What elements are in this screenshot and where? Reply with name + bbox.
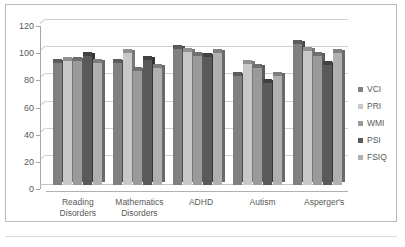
bar-slot	[113, 26, 122, 185]
bar	[313, 56, 322, 185]
bar-slot	[93, 26, 102, 185]
legend-item-vci[interactable]: VCI	[358, 81, 402, 98]
bar-slot	[193, 26, 202, 185]
chart-floor	[40, 185, 348, 192]
category-label: ADHD	[170, 197, 232, 219]
bar-slot	[233, 26, 242, 185]
plot-area: 020406080100120	[40, 20, 348, 192]
bar	[233, 76, 242, 185]
y-tick-mark	[36, 80, 40, 81]
bar-groups	[47, 26, 348, 185]
y-tick-label: 0	[29, 185, 34, 194]
bar	[263, 83, 272, 185]
bar	[243, 64, 252, 185]
legend: VCIPRIWMIPSIFSIQ	[358, 81, 402, 166]
bar-slot	[263, 26, 272, 185]
category-label-line: Disorders	[109, 208, 171, 219]
bar-group	[47, 26, 107, 185]
category-label-line: Disorders	[47, 208, 109, 219]
bar-slot	[83, 26, 92, 185]
category-label-line: ADHD	[170, 197, 232, 208]
y-tick-mark	[36, 162, 40, 163]
bar	[183, 52, 192, 185]
chart-frame: 020406080100120 ReadingDisordersMathemat…	[5, 4, 397, 222]
category-axis-labels: ReadingDisordersMathematicsDisordersADHD…	[47, 197, 355, 219]
legend-swatch-icon	[358, 87, 363, 92]
legend-item-wmi[interactable]: WMI	[358, 115, 402, 132]
bar	[203, 57, 212, 185]
category-label: Autism	[232, 197, 294, 219]
bar	[323, 65, 332, 185]
bar-slot	[73, 26, 82, 185]
category-label: Asperger's	[293, 197, 355, 219]
y-tick-mark	[36, 135, 40, 136]
bar-group	[167, 26, 227, 185]
bar	[83, 56, 92, 185]
bar	[333, 53, 342, 185]
bar	[93, 63, 102, 185]
bar-slot	[333, 26, 342, 185]
legend-swatch-icon	[358, 155, 363, 160]
category-label: MathematicsDisorders	[109, 197, 171, 219]
bar-slot	[243, 26, 252, 185]
bottom-divider	[5, 236, 397, 237]
bar	[213, 53, 222, 185]
bar-group	[228, 26, 288, 185]
y-tick-label: 120	[19, 22, 34, 31]
bar-slot	[203, 26, 212, 185]
legend-item-pri[interactable]: PRI	[358, 98, 402, 115]
category-label-line: Mathematics	[109, 197, 171, 208]
legend-label: PSI	[367, 136, 381, 145]
y-tick-mark	[36, 108, 40, 109]
category-label: ReadingDisorders	[47, 197, 109, 219]
legend-swatch-icon	[358, 104, 363, 109]
legend-swatch-icon	[358, 138, 363, 143]
bar-slot	[143, 26, 152, 185]
bar-group	[288, 26, 348, 185]
y-tick-label: 100	[19, 49, 34, 58]
chart-floor-front-edge	[46, 191, 348, 192]
bar	[273, 76, 282, 185]
bar	[123, 53, 132, 185]
y-tick-label: 60	[24, 103, 34, 112]
bar	[73, 61, 82, 185]
bar	[63, 61, 72, 185]
bar	[193, 56, 202, 185]
bar-group	[107, 26, 167, 185]
bar	[303, 51, 312, 185]
bar-slot	[213, 26, 222, 185]
bar-slot	[153, 26, 162, 185]
bar-slot	[323, 26, 332, 185]
legend-label: WMI	[367, 119, 384, 128]
bar-slot	[293, 26, 302, 185]
bar-slot	[313, 26, 322, 185]
y-axis-line	[40, 26, 41, 189]
y-tick-label: 40	[24, 130, 34, 139]
legend-label: VCI	[367, 85, 381, 94]
gridline-depth-edge	[40, 19, 46, 24]
bar	[293, 44, 302, 185]
bar	[143, 60, 152, 185]
bar	[53, 63, 62, 185]
bar	[173, 49, 182, 185]
y-tick-label: 80	[24, 76, 34, 85]
category-label-line: Reading	[47, 197, 109, 208]
legend-swatch-icon	[358, 121, 363, 126]
y-tick-mark	[36, 26, 40, 27]
legend-label: PRI	[367, 102, 381, 111]
bar-slot	[273, 26, 282, 185]
gridline	[46, 19, 348, 20]
y-tick-mark	[36, 53, 40, 54]
legend-item-psi[interactable]: PSI	[358, 132, 402, 149]
bar-slot	[253, 26, 262, 185]
bar-slot	[123, 26, 132, 185]
legend-item-fsiq[interactable]: FSIQ	[358, 149, 402, 166]
legend-label: FSIQ	[367, 153, 387, 162]
category-label-line: Asperger's	[293, 197, 355, 208]
bar-slot	[303, 26, 312, 185]
bar-slot	[63, 26, 72, 185]
bar-slot	[133, 26, 142, 185]
bar	[133, 71, 142, 185]
bar	[113, 63, 122, 185]
category-label-line: Autism	[232, 197, 294, 208]
